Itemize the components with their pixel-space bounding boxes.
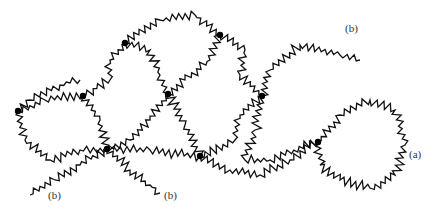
polymer-chain: [262, 44, 361, 96]
polymer-chain: [83, 43, 125, 96]
polymer-chain: [125, 11, 220, 43]
polymer-chain: [168, 35, 220, 95]
polymer-chain: [107, 94, 168, 149]
crosslink-node: [80, 93, 86, 99]
crosslink-node: [259, 93, 265, 99]
crosslink-node: [165, 91, 171, 97]
label-b-bottom-left: (b): [48, 189, 61, 201]
polymer-network-diagram: [0, 0, 435, 213]
crosslink-node: [315, 139, 321, 145]
polymer-chain: [200, 96, 262, 157]
crosslink-node: [197, 153, 203, 159]
polymer-chain: [16, 111, 107, 162]
polymer-chain: [167, 94, 204, 156]
polymer-chain: [18, 93, 83, 113]
polymer-chain: [314, 99, 408, 190]
polymer-chain: [82, 96, 109, 149]
crosslink-node: [122, 40, 128, 46]
label-b-bottom-middle: (b): [164, 189, 177, 201]
crosslink-node: [15, 108, 21, 114]
polymer-chain: [107, 149, 160, 194]
crosslink-node: [217, 32, 223, 38]
label-a-loop: (a): [409, 148, 421, 160]
polymer-chain: [220, 35, 262, 96]
crosslink-node: [104, 146, 110, 152]
polymer-chain: [125, 42, 168, 94]
label-b-top-right: (b): [345, 22, 358, 34]
